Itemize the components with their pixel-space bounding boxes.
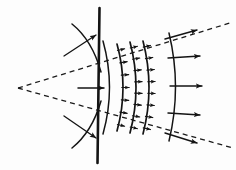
blocked-wave-arc-upper-arrow [64,35,96,56]
wavefront-diagram-figure: Wavefront propagation through an apertur… [0,0,236,170]
lower-divergence-ray [18,88,233,148]
upper-divergence-ray [18,22,233,88]
diagram-canvas [0,0,236,170]
blocked-wave-arcs-group [64,24,101,148]
blocked-wave-arc-lower-arrow [64,116,96,138]
wavefronts-group [103,33,176,141]
wavefront-3-tick-arrow [147,69,154,70]
wavefront-3-arc [143,41,149,134]
wavefront-2-tick-arrow [134,104,141,105]
wavefront-1-tick-arrow [121,75,128,76]
wavefront-3 [143,41,155,134]
aperture-plane-line [98,8,100,163]
wavefront-1-tick-arrow [121,100,128,101]
wavefront-4-outer-arc [169,33,176,141]
wavefront-3-tick-arrow [147,105,154,106]
propagation-arrows-group [78,30,202,143]
blocked-wave-arc-upper [64,24,101,72]
wavefront-4-outer [169,33,176,141]
outer-arrow-lower [168,113,200,115]
divergence-cone-group [18,22,233,148]
wavefront-2-tick-arrow [134,70,141,71]
blocked-wave-arc-lower [64,101,101,148]
